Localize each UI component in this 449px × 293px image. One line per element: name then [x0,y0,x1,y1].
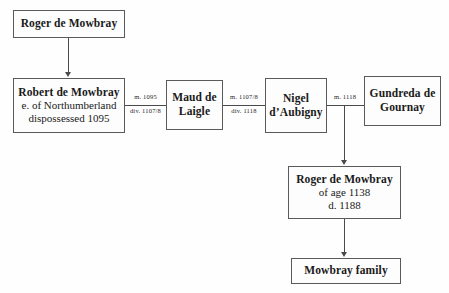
node-line: Laigle [179,105,210,119]
marriage-label-maud-nigel-divorced: div. 1118 [223,107,265,114]
genealogy-chart: Roger de Mowbray Robert de Mowbray e. of… [0,0,449,293]
node-line: Roger de Mowbray [296,173,393,187]
node-line: Maud de [172,91,216,105]
marriage-label-robert-maud-married: m. 1095 [125,93,166,100]
node-line: Nigel [283,92,309,106]
node-line: dispossessed 1095 [29,112,110,125]
node-line: of age 1138 [319,186,371,199]
arrowhead-roger-younger-to-mowbray-family [341,252,347,257]
arrowhead-elder-roger-to-robert [65,72,71,77]
node-maud-de-laigle: Maud de Laigle [166,80,223,130]
node-gundreda-de-gournay: Gundreda de Gournay [364,76,441,126]
marriage-label-nigel-gundreda-married: m. 1118 [326,93,364,100]
node-roger-de-mowbray-elder: Roger de Mowbray [13,10,125,38]
marriage-line-nigel-gundreda [327,105,364,106]
node-roger-de-mowbray-younger: Roger de Mowbray of age 1138 d. 1188 [288,166,401,219]
connector-nigel-gundreda-to-roger-younger [344,105,345,161]
node-line: Mowbray family [304,264,387,278]
node-line: e. of Northumberland [22,99,117,112]
node-line: Roger de Mowbray [21,17,118,31]
node-line: Gournay [380,101,425,115]
node-nigel-daubigny: Nigel d’Aubigny [265,78,327,133]
node-robert-de-mowbray: Robert de Mowbray e. of Northumberland d… [13,78,125,133]
marriage-label-robert-maud-divorced: div. 1107/8 [125,107,166,114]
marriage-line-maud-nigel [223,105,265,106]
node-line: d. 1188 [328,199,361,212]
node-line: d’Aubigny [269,106,322,120]
node-mowbray-family: Mowbray family [291,258,401,284]
node-line: Robert de Mowbray [18,86,119,100]
connector-roger-younger-to-mowbray-family [344,219,345,253]
arrowhead-nigel-gundreda-to-roger-younger [341,160,347,165]
marriage-line-robert-maud [125,105,166,106]
connector-elder-roger-to-robert [68,38,69,73]
marriage-label-maud-nigel-married: m. 1107/8 [223,93,265,100]
node-line: Gundreda de [370,87,436,101]
